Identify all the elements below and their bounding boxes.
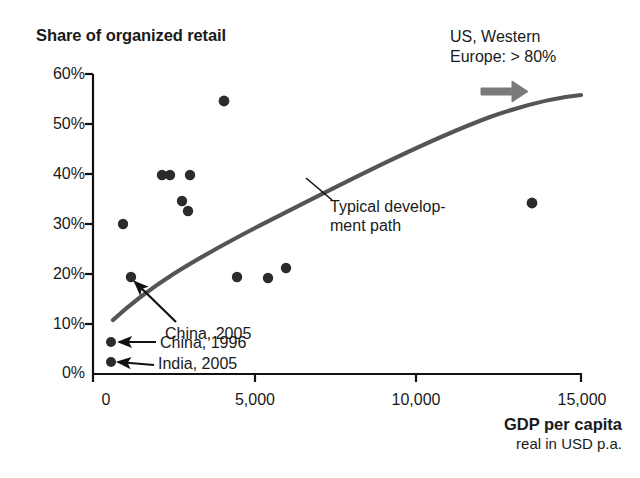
scatter-points xyxy=(106,96,537,367)
axes xyxy=(85,74,582,382)
data-point xyxy=(165,170,175,180)
data-point xyxy=(263,273,273,283)
trend-curve-typical-development-path xyxy=(113,95,581,320)
chart-figure: Share of organized retail 60% 50% 40% 30… xyxy=(0,0,640,478)
data-point xyxy=(232,272,242,282)
plot-area xyxy=(0,0,640,478)
data-point-china-2005 xyxy=(126,272,136,282)
data-point xyxy=(177,196,187,206)
leader-line-india-2005 xyxy=(118,362,154,365)
data-point xyxy=(219,96,230,107)
data-point-india-2005 xyxy=(106,357,116,367)
data-point xyxy=(183,206,193,216)
data-point xyxy=(527,198,538,209)
growth-arrow-icon xyxy=(481,81,528,102)
data-point xyxy=(281,263,291,273)
data-point xyxy=(118,219,128,229)
data-point xyxy=(185,170,195,180)
data-point-china-1996 xyxy=(106,337,116,347)
